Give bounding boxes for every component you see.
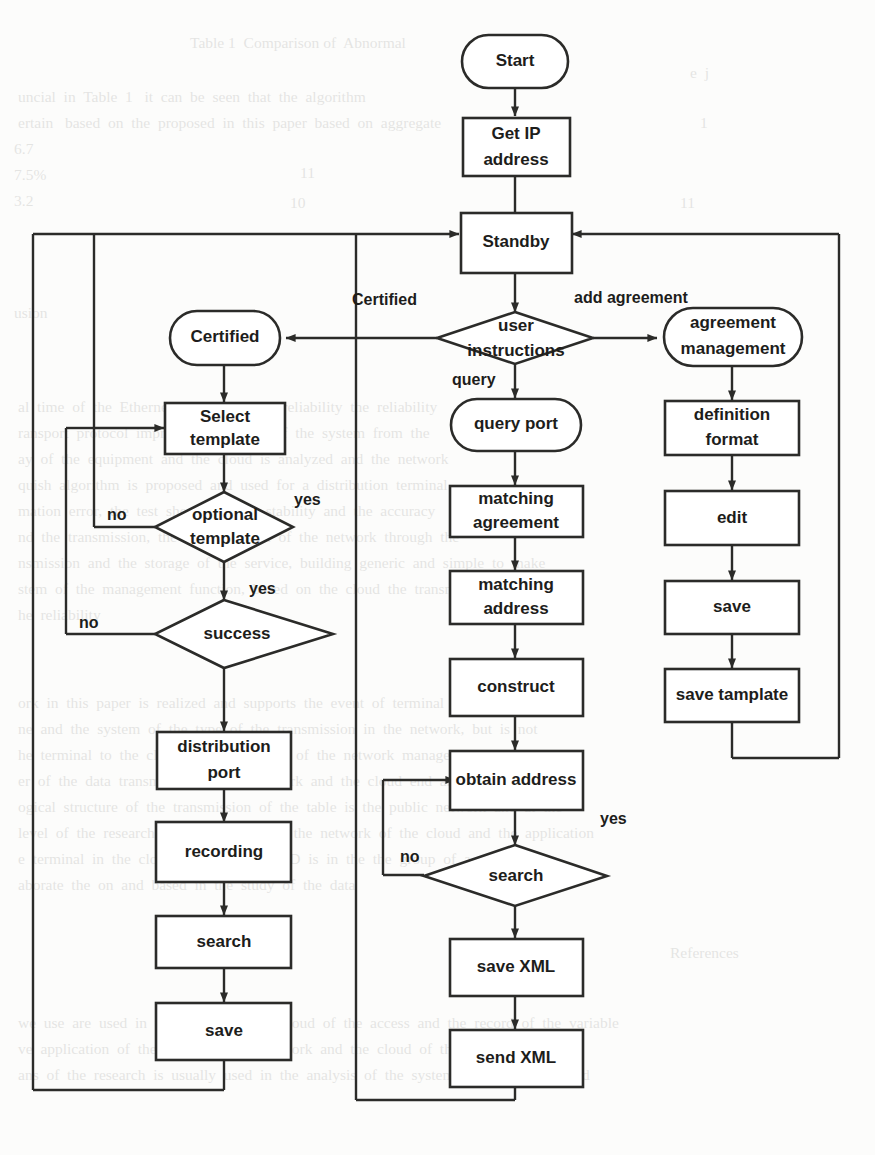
node-user-instructions-label-line2: instructions [467, 341, 564, 360]
node-matching-agreement-label-line1: matching [478, 489, 554, 508]
node-save-xml[interactable]: save XML [450, 939, 583, 996]
node-success[interactable]: success [155, 600, 333, 668]
node-matching-agreement-label-line2: agreement [473, 513, 559, 532]
node-success-label: success [203, 624, 270, 643]
edge-label-optional-template-yes: yes [294, 491, 321, 508]
node-optional-template-label-line2: template [190, 529, 260, 548]
node-search-decision-label: search [489, 866, 544, 885]
node-edit[interactable]: edit [665, 491, 799, 545]
node-search-left-label: search [197, 932, 252, 951]
node-save-template[interactable]: save tamplate [665, 669, 799, 722]
node-recording[interactable]: recording [156, 822, 291, 882]
node-distribution-port[interactable]: distribution port [157, 732, 291, 789]
node-query-port[interactable]: query port [451, 399, 581, 451]
edge-label-success-no: no [79, 614, 99, 631]
node-matching-address[interactable]: matching address [450, 571, 583, 624]
node-save-left-label: save [205, 1021, 243, 1040]
node-user-instructions-label-line1: user [498, 316, 534, 335]
node-edit-label: edit [717, 508, 748, 527]
node-recording-label: recording [185, 842, 263, 861]
node-search-left[interactable]: search [156, 916, 291, 968]
edge-label-query: query [452, 371, 496, 388]
node-get-ip-address[interactable]: Get IP address [463, 118, 570, 176]
node-save-left[interactable]: save [156, 1003, 291, 1060]
flowchart-canvas: Start Get IP address Standby user instru… [0, 0, 875, 1155]
node-definition-format[interactable]: definition format [665, 401, 799, 455]
node-construct-label: construct [477, 677, 555, 696]
node-obtain-address-label: obtain address [456, 770, 577, 789]
node-get-ip-address-label-line1: Get IP [491, 124, 540, 143]
edge-label-certified: Certified [352, 291, 417, 308]
edge-label-success-yes: yes [249, 580, 276, 597]
node-start[interactable]: Start [462, 35, 568, 88]
node-send-xml-label: send XML [476, 1048, 556, 1067]
node-distribution-port-label-line1: distribution [177, 737, 270, 756]
node-standby[interactable]: Standby [461, 213, 572, 273]
node-matching-address-label-line1: matching [478, 575, 554, 594]
node-search-decision[interactable]: search [424, 845, 607, 906]
node-certified[interactable]: Certified [170, 311, 280, 365]
edge-label-add-agreement: add agreement [574, 289, 688, 306]
edge-label-optional-template-no: no [107, 506, 127, 523]
node-matching-address-label-line2: address [483, 599, 548, 618]
node-standby-label: Standby [482, 232, 550, 251]
node-query-port-label: query port [474, 414, 558, 433]
node-agreement-management[interactable]: agreement management [664, 308, 802, 366]
node-select-template-label-line1: Select [200, 407, 250, 426]
edge-label-search-yes: yes [600, 810, 627, 827]
node-save-right-label: save [713, 597, 751, 616]
node-select-template-label-line2: template [190, 430, 260, 449]
node-save-xml-label: save XML [477, 957, 555, 976]
node-definition-format-label-line2: format [706, 430, 759, 449]
node-matching-agreement[interactable]: matching agreement [450, 486, 583, 537]
node-send-xml[interactable]: send XML [450, 1030, 583, 1087]
edge-label-search-no: no [400, 848, 420, 865]
flowchart-page: Table 1 Comparison of Abnormaluncial in … [0, 0, 875, 1155]
node-start-label: Start [496, 51, 535, 70]
node-optional-template[interactable]: optional template [155, 492, 293, 562]
node-obtain-address[interactable]: obtain address [450, 751, 583, 810]
node-agreement-management-label-line2: management [681, 339, 786, 358]
node-certified-label: Certified [191, 327, 260, 346]
node-save-template-label: save tamplate [676, 685, 788, 704]
node-optional-template-label-line1: optional [192, 505, 258, 524]
node-user-instructions[interactable]: user instructions [437, 312, 593, 364]
node-distribution-port-label-line2: port [207, 763, 240, 782]
node-save-right[interactable]: save [665, 581, 799, 634]
node-construct[interactable]: construct [450, 659, 583, 716]
node-select-template[interactable]: Select template [165, 403, 285, 454]
node-definition-format-label-line1: definition [694, 405, 770, 424]
node-agreement-management-label-line1: agreement [690, 313, 776, 332]
node-get-ip-address-label-line2: address [483, 150, 548, 169]
